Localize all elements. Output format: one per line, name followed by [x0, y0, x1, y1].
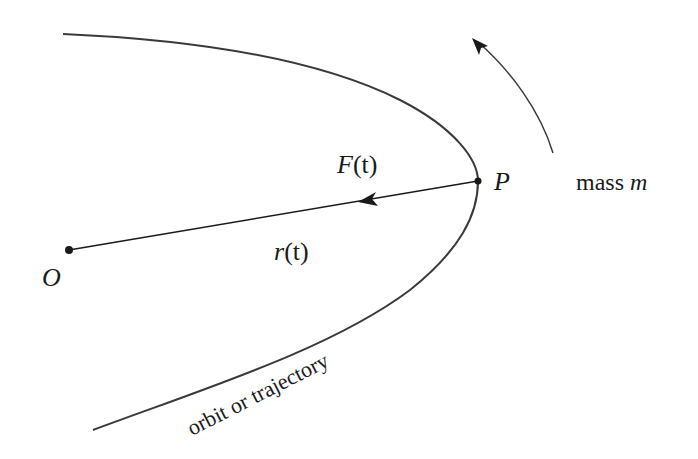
point-p: [475, 178, 482, 185]
curve-label: orbit or trajectory: [183, 348, 333, 441]
orbit-curve: [63, 34, 478, 430]
mass-label: mass m: [576, 169, 647, 195]
origin-point: [65, 246, 73, 254]
force-symbol: F: [336, 150, 354, 179]
mass-symbol: m: [630, 169, 647, 195]
force-label: F(t): [336, 150, 377, 179]
radius-argument: (t): [284, 237, 309, 266]
mass-prefix: mass: [576, 169, 630, 195]
force-argument: (t): [353, 150, 378, 179]
motion-arrow-icon: [472, 38, 488, 55]
origin-label: O: [42, 263, 61, 292]
point-label: P: [493, 167, 510, 196]
radius-label: r(t): [274, 237, 309, 266]
orbit-diagram: O P F(t) r(t) mass m orbit or trajectory: [0, 0, 698, 459]
motion-direction-arc: [478, 42, 553, 153]
